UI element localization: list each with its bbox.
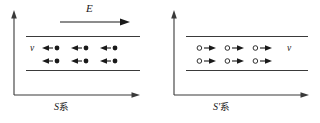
channel-rail-top-s [26,36,140,37]
channel-rail-bottom-s [26,70,140,71]
carrier-negative [99,43,121,53]
panel-frame-s-prime [160,0,320,123]
carrier-negative [70,43,92,53]
caption-frame-s: S系 [54,99,69,113]
velocity-label-s: v [30,44,34,54]
velocity-label-s-prime: v [287,44,291,54]
carrier-negative [41,43,63,53]
carrier-positive [196,43,218,53]
carrier-negative [41,56,63,66]
channel-rail-top-s-prime [186,36,308,37]
channel-rail-bottom-s-prime [186,70,308,71]
carrier-positive [224,56,246,66]
caption-cjk-s: 系 [59,101,69,112]
right-arrow-icon [58,4,134,30]
carrier-negative [99,56,121,66]
carrier-positive [252,43,274,53]
efield-group: E [58,4,134,30]
carrier-positive [252,56,274,66]
physics-figure: E v [0,0,320,123]
efield-label: E [86,2,93,14]
caption-frame-s-prime: S'系 [213,99,230,113]
caption-cjk-s-prime: 系 [220,101,230,112]
carrier-positive [196,56,218,66]
carrier-negative [70,56,92,66]
panel-frame-s: E v [0,0,160,123]
carrier-positive [224,43,246,53]
